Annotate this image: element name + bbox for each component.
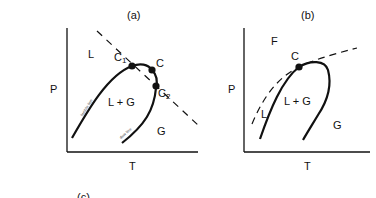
c1-subscript: 1 — [122, 56, 126, 65]
panel-b-point-c — [295, 63, 302, 70]
c2-letter: C — [158, 87, 166, 99]
panel-a-point-c — [148, 66, 155, 73]
panel-b-region-fluid: F — [271, 36, 278, 47]
panel-a-label-c: C — [156, 58, 164, 69]
panel-b-title: (b) — [301, 10, 314, 21]
panel-a-x-axis-label: T — [129, 161, 136, 172]
panel-a-point-c1 — [128, 62, 135, 69]
c1-letter: C — [114, 51, 122, 63]
panel-a-region-liquid: L — [88, 49, 94, 60]
panel-a-y-axis-label: P — [50, 84, 57, 95]
panel-b-region-gas: G — [333, 120, 342, 131]
panel-a-dashed-line — [97, 31, 198, 125]
panel-a-label-c2: C2 — [158, 88, 170, 101]
panel-a-title: (a) — [127, 10, 140, 21]
panel-b-label-c: C — [291, 51, 299, 62]
panel-b-y-axis-label: P — [228, 84, 235, 95]
panel-b-region-two-phase: L + G — [284, 96, 311, 107]
panel-a-region-two-phase: L + G — [108, 97, 135, 108]
panel-c-title-partial: (c) — [77, 192, 90, 198]
panel-b-x-axis-label: T — [304, 161, 311, 172]
c2-subscript: 2 — [166, 92, 170, 101]
phase-diagrams-canvas — [0, 0, 376, 198]
panel-a-label-c1: C1 — [114, 52, 126, 65]
panel-b-dashed-line — [252, 48, 357, 124]
panel-b-region-liquid: L — [261, 109, 267, 120]
panel-a-region-gas: G — [157, 126, 166, 137]
